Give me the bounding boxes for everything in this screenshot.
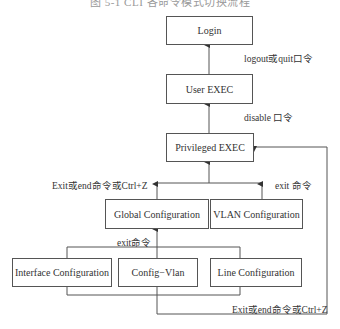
- label-sub-to-priv: Exit或end命令或Ctrl+Z: [232, 302, 328, 316]
- node-interface-configuration: Interface Configuration: [12, 258, 112, 287]
- node-privileged-exec: Privileged EXEC: [166, 133, 254, 162]
- node-vlan-configuration: VLAN Configuration: [210, 199, 303, 229]
- label-sub-to-global: exit命令: [117, 235, 151, 249]
- node-global-configuration: Global Configuration: [105, 199, 209, 229]
- label-user-to-login: logout或quit口令: [244, 51, 313, 65]
- label-vlan-to-priv: exit 命令: [275, 178, 312, 192]
- node-config-vlan: Config−Vlan: [118, 258, 198, 287]
- node-login: Login: [166, 16, 253, 45]
- node-user-exec: User EXEC: [166, 74, 253, 104]
- node-line-configuration: Line Configuration: [210, 258, 302, 287]
- label-priv-to-user: disable 口令: [244, 110, 293, 124]
- label-global-to-priv: Exit或end命令或Ctrl+Z: [52, 178, 148, 192]
